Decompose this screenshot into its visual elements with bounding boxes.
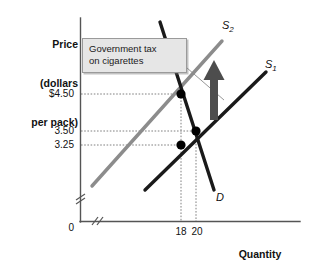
x-tick-label-20: 20 (186, 226, 208, 237)
y-tick-label-450: $4.50 (0, 88, 74, 99)
y-tick-label-325: 3.25 (0, 139, 74, 150)
quantity-axis-title: Quantity (billions of packs per year) (200, 222, 320, 277)
supply-demand-chart: Price (dollars per pack) Quantity (billi… (0, 0, 322, 277)
y-tick-label-350: 3.50 (0, 125, 74, 136)
supply-curve-s1 (145, 72, 266, 190)
curve-label-s1: S1 (265, 58, 277, 75)
curve-label-d: D (216, 191, 224, 203)
point-equilibrium-after-tax (176, 89, 185, 98)
callout-line2: on cigarettes (89, 55, 181, 67)
price-axis-title-line1: Price (0, 38, 78, 51)
government-tax-callout: Government tax on cigarettes (82, 38, 187, 73)
origin-label: 0 (0, 222, 74, 233)
callout-line1: Government tax (89, 43, 181, 55)
point-price-received-by-sellers (176, 140, 185, 149)
quantity-axis-title-line1: Quantity (200, 248, 320, 261)
curve-label-s2: S2 (222, 19, 234, 36)
curve-label-s2-sub: 2 (229, 25, 233, 34)
supply-shift-arrow-icon (204, 60, 225, 120)
point-equilibrium-before-tax (191, 126, 200, 135)
curve-label-s1-sub: 1 (272, 64, 276, 73)
